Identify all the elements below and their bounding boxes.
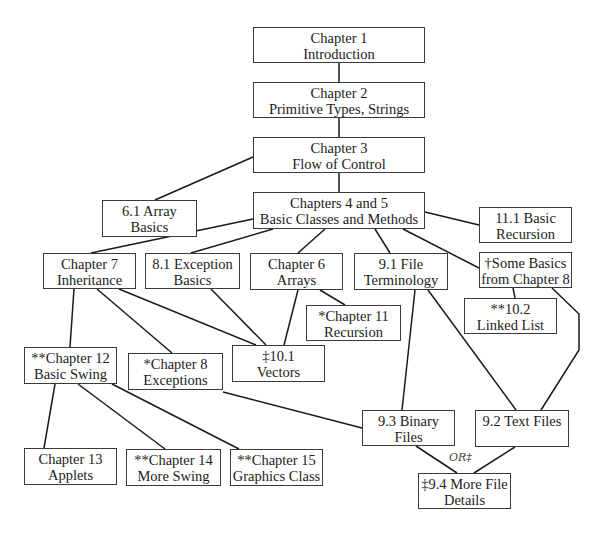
node-title: 9.2 Text Files: [483, 413, 562, 429]
edge-ch12-to-ch13: [44, 384, 55, 448]
node-ch11: *Chapter 11Recursion: [306, 305, 401, 341]
node-subtitle: Introduction: [303, 46, 375, 62]
node-ch12: **Chapter 12Basic Swing: [24, 347, 117, 384]
node-subtitle: Basic Classes and Methods: [260, 211, 418, 227]
node-title: Chapter 1: [311, 30, 368, 46]
edge-ch45-to-ch6: [298, 229, 325, 253]
node-title: 11.1 Basic: [495, 210, 556, 226]
edge-ch45-to-s111: [425, 212, 479, 225]
node-title: ‡10.1: [262, 348, 295, 364]
node-subtitle: Basic Swing: [34, 366, 107, 382]
node-subtitle: Linked List: [477, 317, 544, 333]
edge-s92-to-s94: [474, 447, 515, 473]
node-title: 6.1 Array: [122, 203, 177, 219]
node-subtitle: Details: [444, 492, 485, 508]
node-title: Chapter 2: [311, 85, 368, 101]
node-ch13: Chapter 13Applets: [24, 448, 117, 485]
node-subtitle: Vectors: [257, 364, 301, 380]
edge-ch45-to-s91: [375, 229, 390, 253]
node-title: Chapter 7: [61, 256, 118, 272]
node-s101: ‡10.1Vectors: [232, 345, 325, 382]
or-label: OR‡: [449, 451, 472, 464]
node-title: Chapter 6: [268, 256, 325, 272]
node-title: Chapters 4 and 5: [290, 195, 388, 211]
edge-ch7-to-s101: [119, 289, 256, 345]
node-title: Chapter 3: [311, 140, 368, 156]
node-s91: 9.1 FileTerminology: [354, 253, 448, 290]
node-subtitle: More Swing: [137, 468, 209, 484]
edge-ch7-to-ch12: [70, 289, 74, 347]
edge-s81-to-s101: [211, 289, 266, 345]
edge-ch6-to-ch11: [320, 290, 345, 305]
edge-ch45-to-s81: [191, 229, 273, 253]
node-title: **Chapter 15: [237, 452, 316, 468]
node-title: Chapter 13: [38, 451, 102, 467]
edge-some8-to-s102: [513, 288, 515, 298]
node-s93: 9.3 BinaryFiles: [362, 410, 455, 446]
node-title: *Chapter 8: [143, 356, 207, 372]
node-title: *Chapter 11: [318, 308, 389, 324]
edge-ch12-to-ch15: [112, 384, 239, 449]
node-subtitle: Recursion: [324, 324, 383, 340]
node-subtitle: Graphics Class: [233, 468, 320, 484]
node-title: 9.3 Binary: [378, 413, 439, 429]
node-subtitle: Recursion: [496, 226, 555, 242]
node-title: †Some Basics: [485, 255, 567, 271]
node-subtitle: Inheritance: [57, 272, 122, 288]
node-subtitle: Arrays: [277, 272, 316, 288]
node-subtitle: Applets: [48, 467, 93, 483]
edge-s91-to-s93: [402, 290, 415, 410]
node-subtitle: Flow of Control: [292, 156, 385, 172]
node-ch7: Chapter 7Inheritance: [43, 253, 136, 289]
node-s92: 9.2 Text Files: [475, 410, 569, 447]
node-s102: **10.2Linked List: [464, 298, 557, 334]
node-subtitle: Files: [394, 429, 422, 445]
node-ch3: Chapter 3Flow of Control: [253, 137, 425, 173]
node-title: 8.1 Exception: [152, 256, 233, 272]
edge-ch6-to-s101: [284, 290, 298, 345]
edge-ch7-to-ch8: [97, 289, 172, 353]
node-s61: 6.1 ArrayBasics: [102, 200, 197, 237]
node-title: **Chapter 14: [134, 452, 213, 468]
node-ch8: *Chapter 8Exceptions: [128, 353, 223, 390]
edge-ch12-to-ch14: [78, 384, 165, 449]
node-subtitle: Basics: [131, 219, 169, 235]
node-title: 9.1 File: [379, 256, 423, 272]
node-subtitle: from Chapter 8: [481, 271, 570, 287]
node-title: ‡9.4 More File: [421, 476, 508, 492]
node-subtitle: Terminology: [364, 272, 439, 288]
node-subtitle: Primitive Types, Strings: [269, 101, 409, 117]
node-ch15: **Chapter 15Graphics Class: [230, 449, 323, 486]
node-s111: 11.1 BasicRecursion: [479, 207, 572, 243]
node-ch45: Chapters 4 and 5Basic Classes and Method…: [253, 192, 425, 229]
node-subtitle: Basics: [174, 272, 212, 288]
edge-ch3-to-s61: [155, 157, 253, 200]
node-title: **10.2: [491, 301, 531, 317]
node-s81: 8.1 ExceptionBasics: [145, 253, 240, 289]
node-s94: ‡9.4 More FileDetails: [418, 473, 511, 509]
node-ch1: Chapter 1Introduction: [253, 27, 425, 63]
edge-ch8-to-s93: [223, 392, 362, 428]
node-ch6: Chapter 6Arrays: [250, 253, 343, 290]
chapter-dependency-diagram: Chapter 1IntroductionChapter 2Primitive …: [0, 0, 603, 536]
node-ch14: **Chapter 14More Swing: [126, 449, 221, 486]
node-ch2: Chapter 2Primitive Types, Strings: [253, 82, 425, 118]
node-title: **Chapter 12: [31, 350, 110, 366]
node-some8: †Some Basicsfrom Chapter 8: [479, 252, 572, 288]
node-subtitle: Exceptions: [143, 372, 207, 388]
